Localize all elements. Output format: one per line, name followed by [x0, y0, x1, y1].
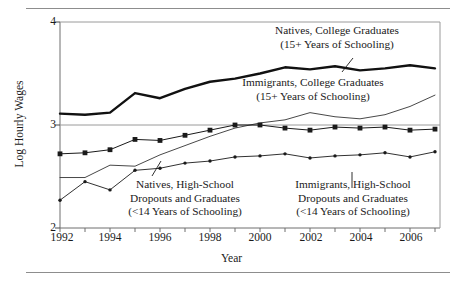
annotation-immigrants-college-line2: (15+ Years of Schooling): [218, 90, 408, 104]
series-marker-3-10: [308, 156, 311, 159]
series-marker-3-15: [433, 150, 436, 153]
series-marker-3-9: [283, 152, 286, 155]
annotation-immigrants-college: Immigrants, College Graduates (15+ Years…: [218, 76, 408, 103]
series-marker-2-12: [358, 126, 363, 131]
annotation-natives-hs-line3: (<14 Years of Schooling): [111, 205, 259, 219]
annotation-immigrants-hs-line3: (<14 Years of Schooling): [277, 205, 429, 219]
series-marker-3-12: [358, 153, 361, 156]
xtick-label-1992: 1992: [42, 232, 82, 244]
series-line-2: [60, 125, 435, 154]
series-marker-2-13: [383, 125, 388, 130]
series-marker-3-3: [133, 169, 136, 172]
ytick-label-4: 4: [38, 16, 56, 28]
series-marker-3-11: [333, 154, 336, 157]
ytick-label-3: 3: [38, 119, 56, 131]
series-marker-2-11: [333, 125, 338, 130]
series-marker-3-1: [83, 180, 86, 183]
series-marker-3-6: [208, 159, 211, 162]
xtick-label-2002: 2002: [291, 232, 331, 244]
series-marker-2-9: [283, 126, 288, 131]
chart-figure: 4 3 2 1992 1994 1996 1998 2000 2002 2004…: [0, 0, 463, 284]
x-axis-title: Year: [0, 252, 463, 264]
xtick-label-1994: 1994: [90, 232, 130, 244]
series-marker-2-8: [258, 123, 263, 128]
annotation-immigrants-college-line1: Immigrants, College Graduates: [218, 76, 408, 90]
annotation-immigrants-hs-line2: Dropouts and Graduates: [277, 192, 429, 206]
annotation-natives-college-line2: (15+ Years of Schooling): [242, 38, 432, 52]
series-marker-2-3: [133, 137, 138, 142]
xtick-label-2000: 2000: [240, 232, 280, 244]
annotation-natives-college: Natives, College Graduates (15+ Years of…: [242, 24, 432, 51]
series-2: [58, 123, 438, 157]
annotation-natives-hs-line2: Dropouts and Graduates: [111, 192, 259, 206]
annotation-natives-hs: Natives, High-School Dropouts and Gradua…: [111, 178, 259, 219]
series-marker-2-5: [183, 133, 188, 138]
series-marker-2-2: [108, 147, 113, 152]
series-marker-2-1: [83, 150, 88, 155]
series-marker-3-7: [233, 155, 236, 158]
annotation-immigrants-hs: Immigrants, High-School Dropouts and Gra…: [277, 178, 429, 219]
xtick-label-1998: 1998: [190, 232, 230, 244]
series-marker-3-13: [383, 151, 386, 154]
series-marker-3-14: [408, 155, 411, 158]
series-marker-2-6: [208, 128, 213, 133]
series-marker-2-4: [158, 138, 163, 143]
annotation-natives-hs-line1: Natives, High-School: [111, 178, 259, 192]
series-marker-2-14: [408, 128, 413, 133]
annotation-natives-college-line1: Natives, College Graduates: [242, 24, 432, 38]
xtick-label-2004: 2004: [341, 232, 381, 244]
y-axis-title: Log Hourly Wages: [13, 74, 25, 174]
series-marker-2-10: [308, 128, 313, 133]
series-marker-2-15: [433, 127, 438, 132]
series-marker-3-0: [58, 198, 61, 201]
series-marker-3-4: [158, 167, 161, 170]
xtick-label-2006: 2006: [391, 232, 431, 244]
xtick-label-1996: 1996: [140, 232, 180, 244]
annotation-immigrants-hs-line1: Immigrants, High-School: [277, 178, 429, 192]
series-marker-2-7: [233, 123, 238, 128]
series-marker-3-8: [258, 154, 261, 157]
series-marker-3-5: [183, 161, 186, 164]
series-marker-2-0: [58, 151, 63, 156]
